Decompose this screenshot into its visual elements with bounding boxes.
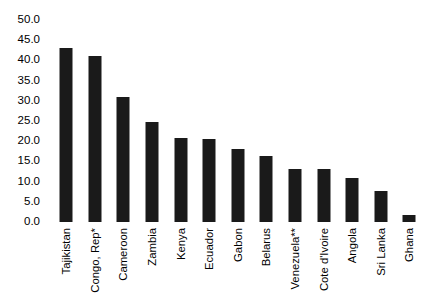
bar-group: Sri Lanka: [367, 0, 396, 304]
y-tick-label: 5.0: [0, 196, 40, 208]
x-tick-label-text: Gabon: [231, 228, 244, 262]
x-tick-label-text: Cote d'Ivoire: [317, 228, 330, 291]
bar-group: Congo, Rep*: [81, 0, 110, 304]
y-tick-label: 35.0: [0, 75, 40, 87]
bar-group: Venezuela**: [281, 0, 310, 304]
bar-group: Belarus: [252, 0, 281, 304]
x-tick-label-text: Zambia: [146, 228, 159, 266]
y-tick-label: 10.0: [0, 176, 40, 188]
x-tick-label-text: Venezuela**: [289, 228, 302, 290]
x-tick-label-text: Belarus: [260, 228, 273, 266]
x-tick-label-text: Cameroon: [117, 228, 130, 281]
x-tick-label: Kenya: [174, 196, 187, 228]
x-tick-label: Cote d'Ivoire: [317, 165, 330, 228]
x-tick-label: Ecuador: [203, 186, 216, 228]
x-tick-label: Belarus: [260, 190, 273, 228]
y-tick-label: 20.0: [0, 135, 40, 147]
y-tick-label: 45.0: [0, 34, 40, 46]
x-tick-label-text: Tajikistan: [60, 228, 73, 274]
x-tick-label-text: Congo, Rep*: [88, 228, 101, 293]
x-tick-label-text: Ecuador: [203, 228, 216, 270]
x-tick-label: Zambia: [146, 190, 159, 228]
y-tick-label: 0.0: [0, 216, 40, 228]
bar-group: Zambia: [138, 0, 167, 304]
x-tick-label: Ghana: [403, 194, 416, 228]
y-tick-label: 40.0: [0, 55, 40, 67]
bar-group: Ghana: [395, 0, 424, 304]
bar-group: Gabon: [224, 0, 253, 304]
bar-group: Cote d'Ivoire: [309, 0, 338, 304]
x-tick-label-text: Sri Lanka: [374, 228, 387, 276]
x-tick-label: Congo, Rep*: [88, 163, 101, 228]
x-tick-label: Sri Lanka: [374, 180, 387, 228]
x-tick-label: Angola: [346, 193, 359, 228]
bar-chart: 50.045.040.035.030.025.020.015.010.05.00…: [0, 0, 438, 304]
bar-group: Kenya: [166, 0, 195, 304]
y-tick-label: 30.0: [0, 95, 40, 107]
bar-group: Cameroon: [109, 0, 138, 304]
x-tick-label: Cameroon: [117, 175, 130, 228]
x-tick-label: Tajikistan: [60, 182, 73, 228]
plot-area: TajikistanCongo, Rep*CameroonZambiaKenya…: [46, 0, 438, 304]
x-tick-label: Gabon: [231, 194, 244, 228]
x-tick-label: Venezuela**: [289, 166, 302, 228]
y-tick-label: 50.0: [0, 14, 40, 26]
y-axis: 50.045.040.035.030.025.020.015.010.05.00…: [0, 0, 46, 304]
bar-group: Angola: [338, 0, 367, 304]
bar-group: Tajikistan: [52, 0, 81, 304]
y-tick-label: 25.0: [0, 115, 40, 127]
bar-group: Ecuador: [195, 0, 224, 304]
y-tick-label: 15.0: [0, 156, 40, 168]
x-tick-label-text: Kenya: [174, 228, 187, 260]
x-tick-label-text: Ghana: [403, 228, 416, 262]
x-tick-label-text: Angola: [346, 228, 359, 263]
